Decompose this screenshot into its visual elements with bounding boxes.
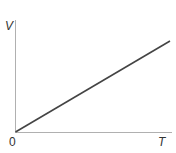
v-t-graph: V 0 T — [0, 0, 176, 153]
origin-label: 0 — [9, 135, 16, 149]
y-axis-label: V — [5, 19, 14, 33]
x-axis-label: T — [158, 135, 167, 149]
data-line — [16, 41, 171, 132]
